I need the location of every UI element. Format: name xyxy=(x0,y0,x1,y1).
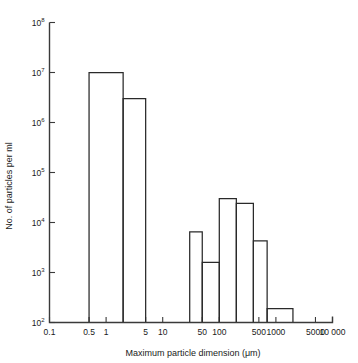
x-tick-label: 10 000 xyxy=(320,327,346,337)
histogram-bar xyxy=(123,99,146,323)
y-tick-label: 106 xyxy=(32,117,45,128)
chart-figure: 102103104105106107108 0.10.5151050100500… xyxy=(0,0,358,363)
x-tick-label: 1 xyxy=(104,327,109,337)
y-axis-ticks: 102103104105106107108 xyxy=(32,17,55,328)
x-tick-label: 1000 xyxy=(266,327,285,337)
x-tick-label: 50 xyxy=(198,327,208,337)
y-tick-label: 103 xyxy=(32,267,45,278)
histogram-bar xyxy=(253,241,267,323)
histogram-bar xyxy=(89,73,123,323)
histogram-bars xyxy=(89,73,293,323)
x-tick-label: 5 xyxy=(143,327,148,337)
y-tick-label: 105 xyxy=(32,167,45,178)
y-tick-label: 104 xyxy=(32,217,45,228)
x-tick-label: 500 xyxy=(252,327,266,337)
y-tick-label: 108 xyxy=(32,17,45,28)
x-tick-label: 100 xyxy=(212,327,226,337)
x-tick-label: 0.5 xyxy=(83,327,95,337)
axis-frame xyxy=(50,23,333,323)
histogram-bar xyxy=(202,262,219,322)
particle-size-histogram: 102103104105106107108 0.10.5151050100500… xyxy=(0,0,358,363)
y-axis-title: No. of particles per ml xyxy=(4,142,14,230)
histogram-bar xyxy=(236,203,253,322)
histogram-bar xyxy=(219,199,236,323)
histogram-bar xyxy=(190,232,203,323)
x-tick-label: 0.1 xyxy=(44,327,56,337)
y-tick-label: 107 xyxy=(32,67,45,78)
x-tick-label: 10 xyxy=(158,327,168,337)
x-axis-title: Maximum particle dimension (μm) xyxy=(125,348,260,358)
histogram-bar xyxy=(267,309,293,323)
